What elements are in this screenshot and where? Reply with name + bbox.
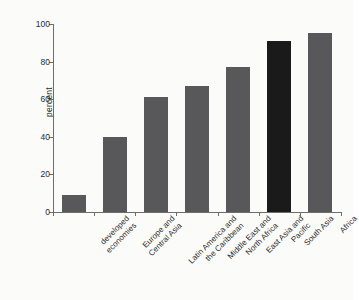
y-tick-label: 0 xyxy=(45,207,50,217)
y-tick-label: 60 xyxy=(41,94,50,104)
x-axis-line xyxy=(53,212,341,213)
bar xyxy=(226,67,250,212)
bar xyxy=(62,195,86,212)
x-tick-label: Africa xyxy=(338,214,359,235)
y-tick-label: 40 xyxy=(41,132,50,142)
y-tick-label: 100 xyxy=(36,19,50,29)
x-tick-mark xyxy=(341,212,342,216)
y-tick-label: 20 xyxy=(41,169,50,179)
x-tick-label: Europe andCentral Asia xyxy=(140,214,184,258)
x-tick-label: developedeconomies xyxy=(97,214,138,255)
bar xyxy=(267,41,291,212)
y-axis-line xyxy=(53,24,54,212)
plot-area: 020406080100 xyxy=(53,24,341,212)
x-tick-label-line: Africa xyxy=(338,214,359,235)
y-tick-label: 80 xyxy=(41,57,50,67)
bar xyxy=(308,33,332,212)
x-tick-label-group: developedeconomiesEurope andCentral Asia… xyxy=(53,214,341,300)
bar xyxy=(185,86,209,212)
bar xyxy=(144,97,168,212)
bar xyxy=(103,137,127,212)
